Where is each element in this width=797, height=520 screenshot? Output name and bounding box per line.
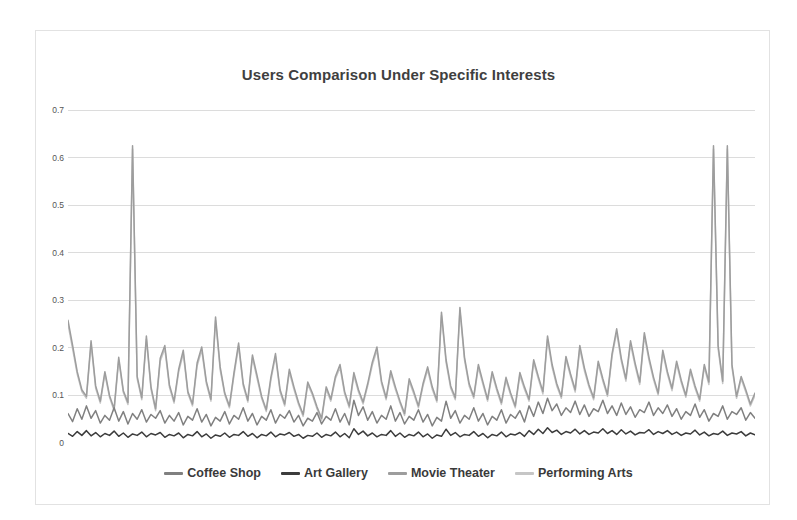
legend-swatch-coffee-shop: [164, 472, 183, 475]
chart-plot-svg: [68, 110, 755, 443]
legend-swatch-movie-theater: [388, 472, 407, 475]
legend-item-movie-theater[interactable]: Movie Theater: [388, 466, 495, 480]
y-tick-0.6: 0.6: [30, 153, 64, 163]
legend-item-coffee-shop[interactable]: Coffee Shop: [164, 466, 261, 480]
chart-legend: Coffee ShopArt GalleryMovie TheaterPerfo…: [0, 466, 797, 480]
legend-label-coffee-shop: Coffee Shop: [187, 466, 261, 480]
legend-label-movie-theater: Movie Theater: [411, 466, 495, 480]
y-tick-0.7: 0.7: [30, 105, 64, 115]
y-tick-0.3: 0.3: [30, 295, 64, 305]
series-lines: [68, 146, 755, 439]
legend-item-art-gallery[interactable]: Art Gallery: [281, 466, 368, 480]
y-tick-0.4: 0.4: [30, 248, 64, 258]
y-tick-0: 0: [30, 438, 64, 448]
series-line-performing-arts: [68, 149, 755, 420]
legend-swatch-art-gallery: [281, 472, 300, 475]
legend-label-art-gallery: Art Gallery: [304, 466, 368, 480]
chart-container: Users Comparison Under Specific Interest…: [0, 0, 797, 520]
y-tick-0.1: 0.1: [30, 390, 64, 400]
legend-swatch-performing-arts: [515, 472, 534, 475]
y-tick-0.5: 0.5: [30, 200, 64, 210]
y-tick-0.2: 0.2: [30, 343, 64, 353]
legend-label-performing-arts: Performing Arts: [538, 466, 633, 480]
legend-item-performing-arts[interactable]: Performing Arts: [515, 466, 633, 480]
plot-area: [68, 110, 755, 443]
series-line-art-gallery: [68, 428, 755, 438]
series-line-movie-theater: [68, 146, 755, 419]
chart-title: Users Comparison Under Specific Interest…: [0, 66, 797, 83]
series-line-coffee-shop: [68, 398, 755, 426]
